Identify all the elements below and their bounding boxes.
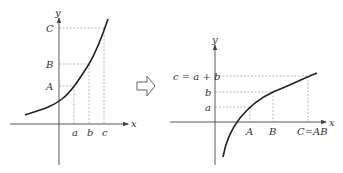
label-c-eq-a-plus-b: c = a + b: [173, 71, 220, 82]
left-curve: [25, 19, 108, 115]
label-B: B: [268, 126, 276, 137]
label-a: a: [205, 102, 211, 113]
label-b: b: [205, 87, 211, 98]
label-A: A: [45, 81, 53, 92]
label-b: b: [87, 127, 93, 138]
left-y-axis-label: y: [54, 7, 61, 18]
label-C-eq-AB: C=AB: [297, 126, 328, 137]
diagram-canvas: y x C B A a b c y x c = a + b b a A B C=…: [0, 0, 343, 173]
label-c: c: [102, 127, 108, 138]
label-B: B: [45, 59, 53, 70]
label-a: a: [72, 127, 78, 138]
right-y-axis-label: y: [211, 34, 218, 45]
left-x-axis-label: x: [131, 118, 137, 129]
right-graph: y x c = a + b b a A B C=AB: [170, 34, 335, 165]
label-A: A: [245, 126, 253, 137]
left-graph: y x C B A a b c: [10, 7, 137, 165]
right-x-axis-label: x: [329, 117, 335, 128]
right-curve: [223, 73, 317, 157]
hollow-right-arrow-icon: [137, 76, 155, 96]
label-C: C: [46, 23, 54, 34]
